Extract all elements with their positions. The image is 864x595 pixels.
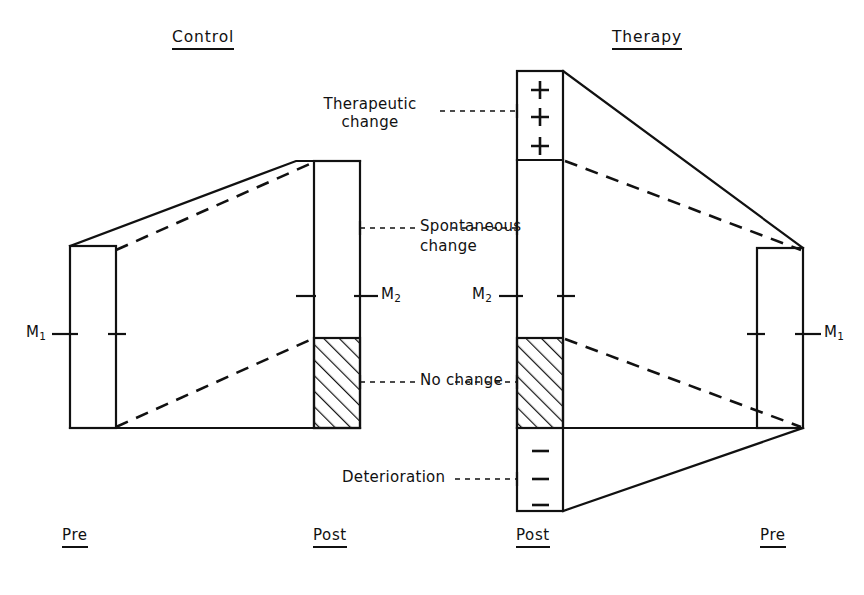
figure-canvas: Control Therapy Therapeutic change Spont…: [0, 0, 864, 595]
therapy-dashed-bottom: [565, 339, 801, 427]
group-title-therapy: Therapy: [612, 28, 682, 50]
axis-label-control-post-m2: M2: [381, 286, 401, 304]
callout-therapeutic-line2: change: [341, 113, 398, 131]
foot-label-control-pre: Pre: [62, 527, 88, 548]
group-title-control: Control: [172, 28, 234, 50]
foot-label-therapy-pre: Pre: [760, 527, 786, 548]
therapy-bottom-edge: [563, 428, 803, 511]
therapy-group-graphic: [505, 71, 815, 511]
axis-label-control-pre-m1: M1: [26, 324, 46, 342]
control-top-edge: [70, 161, 360, 246]
callout-spontaneous-line1: Spontaneous: [420, 218, 521, 236]
axis-label-therapy-pre-m1: M1: [824, 324, 844, 342]
therapy-pre-bar: [757, 248, 803, 428]
callout-deterioration: Deterioration: [342, 469, 445, 487]
callout-no-change: No change: [420, 372, 503, 390]
control-no-change-block: [314, 338, 360, 428]
therapy-dashed-top: [565, 161, 801, 250]
control-dashed-top: [116, 163, 312, 250]
plus-glyph-group: [531, 81, 549, 155]
diagram-svg: [0, 0, 864, 595]
control-pre-bar: [70, 246, 116, 428]
callout-spontaneous-line2: change: [420, 238, 452, 256]
therapy-no-change-block: [517, 338, 563, 428]
callout-therapeutic-change: Therapeutic change: [300, 96, 440, 131]
control-group-graphic: [58, 161, 372, 428]
minus-glyph-group: [532, 451, 549, 505]
foot-label-therapy-post: Post: [516, 527, 550, 548]
foot-label-control-post: Post: [313, 527, 347, 548]
axis-label-therapy-post-m2: M2: [472, 286, 492, 304]
callout-therapeutic-line1: Therapeutic: [323, 95, 416, 113]
control-dashed-bottom: [116, 339, 312, 427]
therapy-top-edge: [563, 71, 803, 248]
